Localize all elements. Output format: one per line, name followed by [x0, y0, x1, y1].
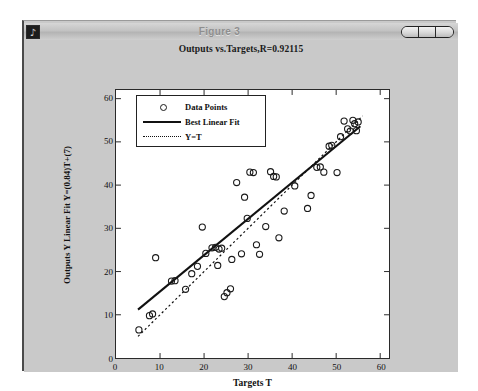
- window-controls: [401, 26, 454, 38]
- plot-area: Data Points Best Linear Fit Y=T: [115, 89, 390, 359]
- y-tick-label: 20: [104, 267, 113, 277]
- screen: ♪ Figure 3 Outputs vs.Targets,R=0.92115 …: [0, 0, 478, 391]
- y-tick-label: 10: [104, 310, 113, 320]
- figure-window: ♪ Figure 3 Outputs vs.Targets,R=0.92115 …: [22, 20, 456, 371]
- best-fit-line: [138, 126, 360, 309]
- solid-line-icon: [141, 115, 183, 129]
- x-axis-label: Targets T: [115, 378, 390, 388]
- y-tick-label: 30: [104, 223, 113, 233]
- chart-title: Outputs vs.Targets,R=0.92115: [24, 44, 458, 54]
- window-title: Figure 3: [40, 26, 399, 37]
- x-tick-label: 60: [377, 362, 386, 372]
- chart-legend: Data Points Best Linear Fit Y=T: [136, 95, 266, 147]
- legend-item-data-points: Data Points: [141, 99, 261, 114]
- window-title-bar[interactable]: ♪ Figure 3: [24, 23, 458, 40]
- x-tick-label: 0: [113, 362, 118, 372]
- legend-label-identity: Y=T: [183, 132, 202, 142]
- data-points: [136, 117, 361, 333]
- x-axis-ticks: 0102030405060: [115, 362, 390, 376]
- x-tick-label: 50: [332, 362, 341, 372]
- y-tick-label: 50: [104, 136, 113, 146]
- y-tick-label: 40: [104, 180, 113, 190]
- y-tick-label: 60: [104, 93, 113, 103]
- maximize-button[interactable]: [419, 27, 436, 37]
- x-tick-label: 40: [288, 362, 297, 372]
- dotted-line-icon: [141, 130, 183, 144]
- legend-label-data-points: Data Points: [183, 102, 227, 112]
- close-button[interactable]: [436, 27, 453, 37]
- y-axis-label: Outputs Y Linear Fit Y=(0.84)T+(7): [62, 115, 72, 315]
- x-tick-label: 20: [199, 362, 208, 372]
- legend-label-best-linear-fit: Best Linear Fit: [183, 117, 240, 127]
- minimize-button[interactable]: [402, 27, 419, 37]
- legend-item-best-linear-fit: Best Linear Fit: [141, 114, 261, 129]
- x-tick-label: 30: [244, 362, 253, 372]
- y-axis-ticks: 0102030405060: [90, 89, 113, 359]
- circle-marker-icon: [141, 100, 183, 114]
- legend-item-identity: Y=T: [141, 129, 261, 144]
- x-tick-label: 10: [155, 362, 164, 372]
- matlab-window-icon: ♪: [26, 25, 40, 39]
- figure-canvas: Outputs vs.Targets,R=0.92115 01020304050…: [24, 40, 458, 372]
